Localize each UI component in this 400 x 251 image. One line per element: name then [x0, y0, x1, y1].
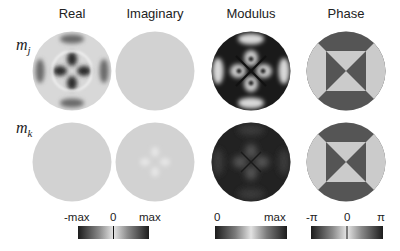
- column-title-imaginary: Imaginary: [110, 6, 200, 21]
- row-label-mj-sub: j: [28, 44, 31, 56]
- row-label-mj: mj: [16, 36, 31, 56]
- panel-mk-modulus: [211, 122, 291, 202]
- panel-mk-imaginary: [115, 122, 195, 202]
- panel-mk-phase: [306, 122, 386, 202]
- colorbar1-label-min: -max: [64, 211, 90, 223]
- colorbar3-label-zero: 0: [344, 211, 350, 223]
- colorbar1-label-max: max: [139, 211, 161, 223]
- column-title-real: Real: [27, 6, 117, 21]
- colorbar2-label-zero: 0: [214, 211, 220, 223]
- panel-mk-real: [32, 122, 112, 202]
- colorbar1-label-zero: 0: [110, 211, 116, 223]
- row-label-mk-main: m: [16, 119, 28, 136]
- panel-mj-imaginary: [115, 31, 195, 111]
- row-label-mk: mk: [16, 119, 32, 139]
- row-label-mj-main: m: [16, 36, 28, 53]
- panel-mj-modulus: [211, 31, 291, 111]
- colorbar-real-imaginary: [78, 226, 149, 239]
- colorbar-phase: [311, 226, 383, 239]
- panel-mj-phase: [306, 31, 386, 111]
- colorbar3-label-pi: π: [377, 211, 385, 223]
- colorbar-modulus: [215, 226, 287, 239]
- column-title-phase: Phase: [301, 6, 391, 21]
- colorbar2-label-max: max: [264, 211, 286, 223]
- column-title-modulus: Modulus: [206, 6, 296, 21]
- colorbar3-label-neg-pi: -π: [306, 211, 318, 223]
- panel-mj-real: [32, 31, 112, 111]
